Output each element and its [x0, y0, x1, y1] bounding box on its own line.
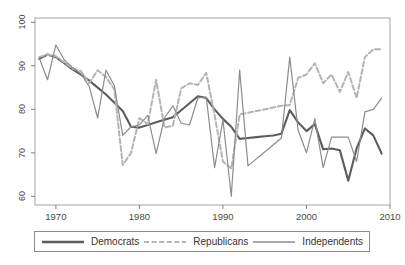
legend-label: Democrats: [91, 236, 139, 247]
legend-swatch-icon: [41, 237, 85, 247]
series-line-independents: [39, 45, 381, 196]
series-line-republicans: [39, 49, 381, 168]
legend-label: Independents: [302, 236, 363, 247]
x-tick-label: 1980: [129, 211, 150, 222]
y-tick-label: 80: [17, 104, 27, 114]
chart-figure: 60708090100 19701980199020002010 Democra…: [0, 0, 405, 265]
legend-swatch-icon: [143, 237, 187, 247]
y-tick-label: 100: [17, 15, 27, 30]
axis-ticks: [31, 22, 390, 209]
series-line-democrats: [39, 55, 381, 181]
x-tick-label: 1970: [45, 211, 66, 222]
legend-label: Republicans: [193, 236, 248, 247]
chart-svg: [0, 0, 405, 215]
x-tick-label: 1990: [212, 211, 233, 222]
x-tick-label: 2010: [379, 211, 400, 222]
plot-area: 60708090100 19701980199020002010: [0, 0, 405, 215]
legend-item-independents: Independents: [252, 236, 363, 247]
y-tick-label: 70: [17, 148, 27, 158]
axis-frame: [35, 18, 390, 205]
chart-legend: DemocratsRepublicansIndependents: [34, 231, 370, 252]
y-tick-label: 90: [17, 61, 27, 71]
legend-item-republicans: Republicans: [143, 236, 248, 247]
legend-swatch-icon: [252, 237, 296, 247]
legend-item-democrats: Democrats: [41, 236, 139, 247]
y-tick-label: 60: [17, 191, 27, 201]
series-lines: [39, 45, 381, 196]
x-tick-label: 2000: [296, 211, 317, 222]
